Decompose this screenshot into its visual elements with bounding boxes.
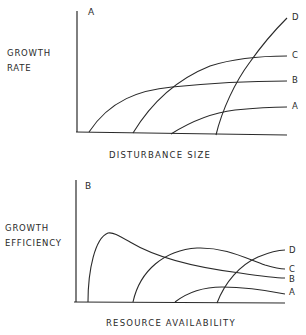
panel-b-curve-label-b: B xyxy=(289,273,296,286)
panel-a-x-axis xyxy=(76,132,287,135)
panel-a-curve-label-a: A xyxy=(292,100,299,113)
panel-b-curve-label-d: D xyxy=(289,244,296,257)
panel-a-curve-d xyxy=(216,18,287,135)
panel-a-axes xyxy=(76,11,287,135)
panel-b-curve-b xyxy=(88,233,285,302)
panel-a-curve-c xyxy=(133,56,287,133)
panel-b-label: B xyxy=(85,180,92,193)
panel-b-x-axis xyxy=(74,302,285,303)
panel-a-curve-a xyxy=(171,107,287,134)
panel-b-axes xyxy=(74,180,285,303)
panel-a-curves xyxy=(89,18,287,135)
panel-b-curve-d xyxy=(217,250,285,303)
panel-a-xlabel: DISTURBANCE SIZE xyxy=(109,149,211,162)
panel-a-ylabel-line1: GROWTH xyxy=(7,47,51,60)
panel-b-curve-a xyxy=(175,287,285,302)
panel-a-label: A xyxy=(88,6,95,19)
panel-b-ylabel-line1: GROWTH xyxy=(5,222,49,235)
panel-a-curve-label-d: D xyxy=(292,11,299,24)
panel-b-ylabel-line2: EFFICIENCY xyxy=(5,237,62,250)
panel-b-xlabel: RESOURCE AVAILABILITY xyxy=(106,317,236,330)
panel-a-curve-label-b: B xyxy=(292,74,299,87)
two-panel-diagram: A GROWTH RATE DISTURBANCE SIZE D C B A B… xyxy=(0,0,306,335)
panel-b-curve-label-a: A xyxy=(289,286,296,299)
panel-a-ylabel-line2: RATE xyxy=(7,62,31,75)
panel-a-curve-label-c: C xyxy=(292,49,299,62)
panel-b-curves xyxy=(88,233,285,303)
panel-b-curve-c xyxy=(133,248,285,302)
